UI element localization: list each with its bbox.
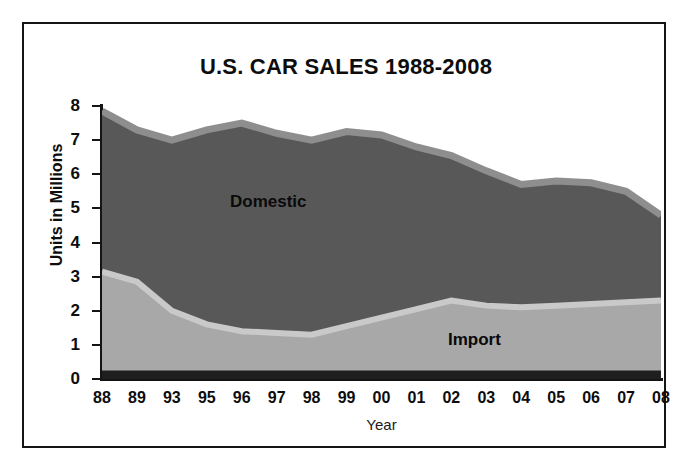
y-axis-tick [92,105,101,107]
chart-title: U.S. CAR SALES 1988-2008 [24,54,668,80]
y-axis-tick [92,139,101,141]
domestic-area [102,111,661,335]
y-axis-tick [92,173,101,175]
y-axis-tick [92,207,101,209]
y-axis-tick-label: 1 [54,336,80,353]
x-axis-tick-label: 08 [641,389,681,407]
y-axis-tick [92,276,101,278]
y-axis-title: Units in Millions [48,110,66,300]
x-axis-title: Year [102,416,661,433]
series-label-import: Import [448,330,501,350]
plot-area [102,106,661,379]
chart-frame: U.S. CAR SALES 1988-2008 876543210 Units… [22,22,666,448]
y-axis-tick [92,310,101,312]
stacked-area-series [102,106,661,379]
series-label-domestic: Domestic [230,192,307,212]
y-axis-tick [92,242,101,244]
y-axis-tick [92,378,101,380]
y-axis-tick-label: 0 [54,370,80,387]
y-axis-tick [92,344,101,346]
y-axis-tick-label: 2 [54,302,80,319]
chart-screenshot: U.S. CAR SALES 1988-2008 876543210 Units… [0,0,681,458]
